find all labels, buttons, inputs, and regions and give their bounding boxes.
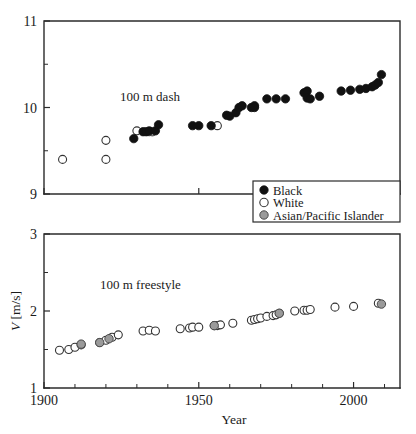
legend-label-asian-pacific-islander: Asian/Pacific Islander bbox=[273, 209, 385, 223]
x-tick-label: 1950 bbox=[185, 393, 213, 408]
series-black bbox=[130, 70, 386, 142]
legend-marker-asian-pacific-islander bbox=[260, 211, 268, 219]
data-point bbox=[207, 121, 215, 129]
data-point bbox=[306, 305, 314, 313]
data-point bbox=[275, 309, 283, 317]
x-tick-label: 2000 bbox=[340, 393, 368, 408]
data-point bbox=[77, 340, 85, 348]
y-tick-label: 10 bbox=[23, 101, 37, 116]
legend-marker-white bbox=[260, 198, 268, 206]
panel-dash: 91011100 m dash bbox=[23, 14, 400, 202]
figure-scatter-sprint-swim: 91011100 m dash123190019502000100 m free… bbox=[0, 0, 416, 434]
data-point bbox=[114, 331, 122, 339]
legend[interactable]: BlackWhiteAsian/Pacific Islander bbox=[253, 181, 400, 223]
data-point bbox=[102, 155, 110, 163]
data-point bbox=[130, 134, 138, 142]
data-point bbox=[250, 103, 258, 111]
data-point bbox=[96, 338, 104, 346]
data-point bbox=[105, 335, 113, 343]
data-point bbox=[263, 95, 271, 103]
legend-marker-black bbox=[260, 186, 268, 194]
data-point bbox=[346, 86, 354, 94]
axis-frame bbox=[44, 21, 400, 194]
y-tick-label: 11 bbox=[24, 14, 37, 29]
data-point bbox=[59, 155, 67, 163]
data-point bbox=[102, 136, 110, 144]
series-white bbox=[55, 299, 382, 354]
data-point bbox=[151, 327, 159, 335]
data-point bbox=[176, 325, 184, 333]
data-point bbox=[195, 323, 203, 331]
data-point bbox=[315, 92, 323, 100]
data-point bbox=[291, 307, 299, 315]
data-point bbox=[374, 78, 382, 86]
data-point bbox=[195, 121, 203, 129]
y-tick-label: 3 bbox=[30, 227, 37, 242]
axis-frame bbox=[44, 234, 400, 388]
data-point bbox=[210, 321, 218, 329]
data-point bbox=[350, 302, 358, 310]
x-axis-title: Year bbox=[222, 412, 247, 427]
data-point bbox=[55, 346, 63, 354]
data-point bbox=[306, 95, 314, 103]
y-tick-label: 2 bbox=[30, 304, 37, 319]
y-axis-title: V [m/s] bbox=[8, 291, 23, 331]
data-point bbox=[331, 303, 339, 311]
data-point bbox=[337, 87, 345, 95]
y-tick-label: 9 bbox=[30, 187, 37, 202]
data-point bbox=[238, 102, 246, 110]
data-point bbox=[154, 121, 162, 129]
data-point bbox=[272, 95, 280, 103]
x-tick-label: 1900 bbox=[30, 393, 58, 408]
data-point bbox=[377, 70, 385, 78]
panel-freestyle: 123190019502000100 m freestyleV [m/s]Yea… bbox=[8, 227, 400, 427]
data-point bbox=[229, 319, 237, 327]
panel-annotation: 100 m dash bbox=[120, 89, 180, 104]
panel-annotation: 100 m freestyle bbox=[100, 277, 181, 292]
plot-canvas: 91011100 m dash123190019502000100 m free… bbox=[0, 0, 416, 434]
data-point bbox=[281, 95, 289, 103]
data-point bbox=[377, 300, 385, 308]
